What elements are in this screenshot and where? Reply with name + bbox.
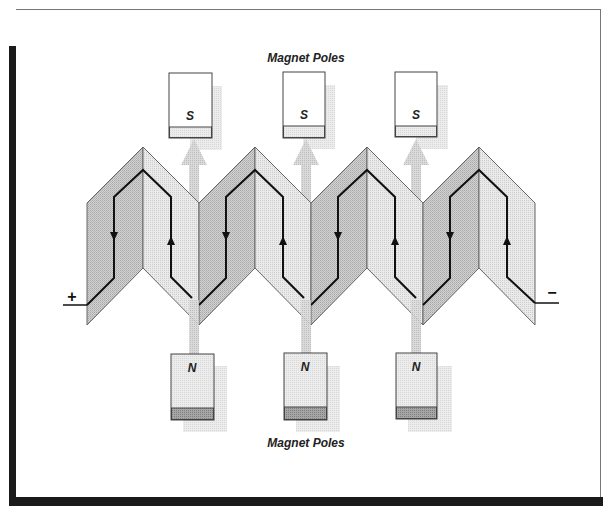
coil-module-3	[311, 147, 423, 325]
south-magnet-2: S	[283, 72, 325, 138]
north-pole-label: N	[188, 361, 197, 375]
flux-arrow-stems-front	[189, 300, 421, 356]
south-pole-label: S	[186, 109, 194, 123]
coil-module-1	[87, 147, 199, 325]
north-magnet-1: N	[171, 354, 214, 420]
north-pole-label: N	[412, 360, 421, 374]
coil-module-4	[423, 147, 535, 325]
south-pole-label: S	[412, 108, 420, 122]
top-magnet-poles-label: Magnet Poles	[267, 51, 345, 65]
south-magnet-1: S	[169, 73, 212, 138]
motor-coil-diagram: Magnet Poles Magnet Poles	[0, 0, 611, 510]
north-magnet-3: N	[396, 353, 437, 419]
north-pole-label: N	[301, 360, 310, 374]
positive-terminal-label: +	[67, 288, 76, 305]
negative-terminal-label: −	[547, 284, 556, 301]
north-magnet-2: N	[284, 353, 327, 420]
bottom-magnet-poles-label: Magnet Poles	[267, 436, 345, 450]
south-pole-label: S	[300, 108, 308, 122]
coil-module-2	[199, 147, 311, 325]
south-magnet-3: S	[395, 72, 437, 137]
